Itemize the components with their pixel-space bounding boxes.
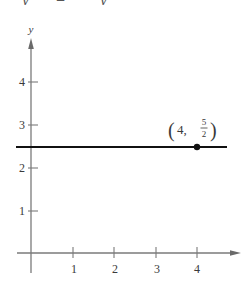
x-axis: 1 2 3 4: [17, 247, 241, 276]
x-tick-label-4: 4: [194, 262, 200, 276]
y-tick-label-3: 3: [19, 118, 25, 132]
open-paren: (: [168, 119, 175, 142]
y-tick-label-2: 2: [19, 161, 25, 175]
x-tick-label-3: 3: [154, 262, 160, 276]
fraction-numerator: 5: [202, 117, 207, 127]
y-tick-label-1: 1: [19, 204, 25, 218]
x-axis-arrow-icon: [230, 250, 241, 256]
point-4-5-2: [194, 144, 200, 150]
y-tick-label-4: 4: [19, 75, 25, 89]
x-tick-label-2: 2: [112, 262, 118, 276]
y-axis-label: y: [28, 23, 34, 35]
chart: y 1 2 3 4 1 2 3 4 ( 4, 5 2 ): [0, 0, 242, 281]
point-x-value: 4,: [177, 122, 187, 137]
y-axis-arrow-icon: [28, 38, 34, 49]
close-paren: ): [210, 119, 217, 142]
fraction-denominator: 2: [202, 129, 207, 139]
x-tick-label-1: 1: [71, 262, 77, 276]
point-label: ( 4, 5 2 ): [168, 117, 217, 142]
